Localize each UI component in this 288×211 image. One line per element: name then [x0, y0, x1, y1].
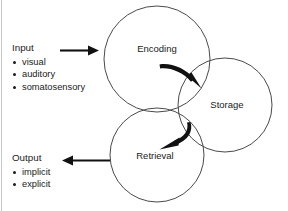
- storage-to-retrieval-arrow: [160, 122, 192, 150]
- encoding-to-storage-arrow: [160, 64, 202, 88]
- list-item: visual: [12, 56, 85, 68]
- list-item: auditory: [12, 68, 85, 80]
- list-item: implicit: [12, 166, 50, 178]
- list-item: explicit: [12, 178, 50, 190]
- input-block: Input visual auditory somatosensory: [12, 42, 85, 93]
- output-arrow: [62, 156, 110, 166]
- output-type-list: implicit explicit: [12, 166, 50, 191]
- encoding-circle: [104, 6, 210, 112]
- output-block: Output implicit explicit: [12, 152, 50, 191]
- storage-label: Storage: [210, 99, 243, 110]
- input-modality-list: visual auditory somatosensory: [12, 56, 85, 93]
- output-heading: Output: [12, 152, 50, 164]
- encoding-label: Encoding: [137, 43, 177, 54]
- list-item: somatosensory: [12, 81, 85, 93]
- input-heading: Input: [12, 42, 85, 54]
- retrieval-label: Retrieval: [136, 150, 174, 161]
- memory-process-diagram: Encoding Storage Retrieval Input visual …: [0, 0, 288, 211]
